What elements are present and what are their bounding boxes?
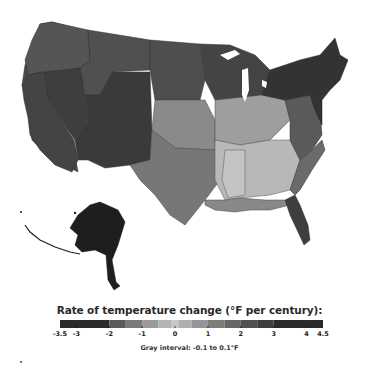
- legend-tick-label: -2: [106, 330, 113, 338]
- region-ohio-valley: [215, 95, 290, 145]
- legend-tick-label: 3: [271, 330, 276, 338]
- island: [20, 211, 22, 213]
- legend-bin-8: [208, 320, 224, 328]
- legend-bin-7: [192, 320, 208, 328]
- legend-bin-6: [178, 320, 191, 328]
- legend-bin-3: [142, 320, 158, 328]
- legend-bin-11: [257, 320, 273, 328]
- legend-tick-label: 2: [239, 330, 244, 338]
- legend-tick-label: -3: [73, 330, 80, 338]
- legend-title: Rate of temperature change (°F per centu…: [0, 304, 379, 316]
- legend-bin-1: [109, 320, 125, 328]
- legend-tick-label: -1: [139, 330, 146, 338]
- legend-tick-label: 4.5: [317, 330, 329, 338]
- legend-tick-labels: -3.5-3-2-1012344.5: [60, 330, 323, 340]
- legend-tick-label: -3.5: [53, 330, 67, 338]
- island: [71, 227, 73, 229]
- region-alaska: [70, 202, 125, 290]
- gray-interval-note: Gray interval: -0.1 to 0.1°F: [0, 344, 379, 352]
- region-northern-plains: [150, 40, 205, 100]
- legend-bin-12: [274, 320, 323, 328]
- legend-bin-0: [60, 320, 109, 328]
- legend-tick-label: 1: [206, 330, 211, 338]
- region-pacific-northwest: [25, 22, 90, 75]
- legend-bin-2: [126, 320, 142, 328]
- us-temperature-map: [0, 0, 379, 300]
- legend-bin-4: [159, 320, 172, 328]
- legend-tick-label: 4: [304, 330, 309, 338]
- region-florida: [285, 195, 310, 245]
- corner-mark: [20, 361, 22, 363]
- legend-bin-10: [241, 320, 257, 328]
- legend-color-bar: [60, 320, 323, 328]
- region-mississippi-valley: [222, 150, 245, 198]
- island: [74, 212, 76, 214]
- region-gulf-coast: [205, 198, 290, 212]
- legend-bin-9: [224, 320, 240, 328]
- legend-tick-label: 0: [173, 330, 178, 338]
